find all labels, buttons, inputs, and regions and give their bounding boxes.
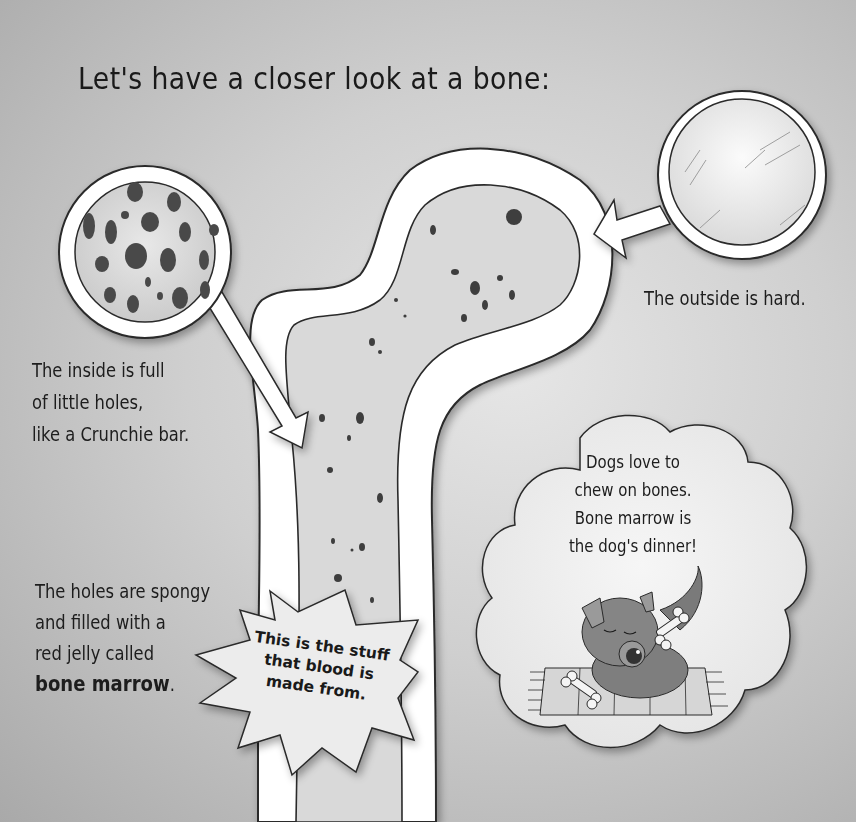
page: Let's have a closer look at a bone: The … bbox=[0, 0, 856, 822]
caption-line: of little holes, bbox=[32, 386, 189, 418]
caption-line: and filled with a bbox=[35, 607, 210, 638]
caption-line: red jelly called bbox=[35, 638, 210, 669]
thought-cloud-text: Dogs love to chew on bones. Bone marrow … bbox=[558, 448, 708, 560]
caption-outside-hard: The outside is hard. bbox=[644, 282, 806, 314]
bone-marrow-term: bone marrow bbox=[35, 672, 170, 696]
cloud-line: chew on bones. bbox=[558, 476, 708, 504]
cloud-line: Dogs love to bbox=[558, 448, 708, 476]
caption-period: . bbox=[170, 673, 175, 695]
caption-bone-marrow: The holes are spongy and filled with a r… bbox=[35, 576, 210, 700]
caption-line-emphasis: bone marrow. bbox=[35, 669, 210, 700]
caption-line: The holes are spongy bbox=[35, 576, 210, 607]
page-title: Let's have a closer look at a bone: bbox=[78, 60, 550, 96]
magnifier-outside bbox=[594, 91, 826, 259]
caption-inside-holes: The inside is full of little holes, like… bbox=[32, 354, 189, 450]
caption-line: The inside is full bbox=[32, 354, 189, 386]
caption-line: like a Crunchie bar. bbox=[32, 418, 189, 450]
cloud-line: Bone marrow is bbox=[558, 504, 708, 532]
cloud-line: the dog's dinner! bbox=[558, 532, 708, 560]
